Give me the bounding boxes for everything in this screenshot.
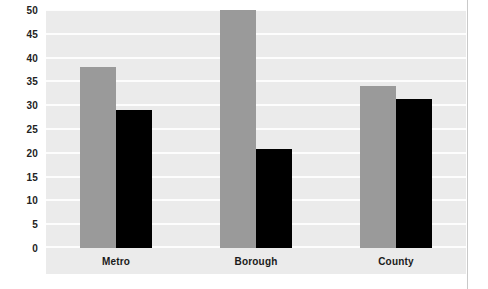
category-label: Borough [234,256,277,267]
figure-right-border [467,0,468,289]
y-axis: 50454035302520151050 [0,10,46,248]
y-tick-label: 15 [26,171,38,182]
y-tick-label: 5 [32,219,38,230]
y-tick-label: 45 [26,28,38,39]
y-tick-label: 35 [26,76,38,87]
y-tick-label: 30 [26,100,38,111]
bars-layer [46,10,466,248]
plot-wrapper: MetroBoroughCounty [46,10,466,274]
category-label: Metro [102,256,130,267]
bar [256,149,292,248]
bar [220,10,256,248]
bar-chart: 50454035302520151050 MetroBoroughCounty [0,0,488,289]
plot-area [46,10,466,248]
y-tick-label: 0 [32,243,38,254]
category-axis: MetroBoroughCounty [46,248,466,274]
bar [360,86,396,248]
bar [396,99,432,248]
y-tick-label: 25 [26,124,38,135]
y-tick-label: 40 [26,52,38,63]
bar [80,67,116,248]
y-tick-label: 50 [26,5,38,16]
category-label: County [378,256,414,267]
y-tick-label: 10 [26,195,38,206]
bar [116,110,152,248]
y-tick-label: 20 [26,147,38,158]
